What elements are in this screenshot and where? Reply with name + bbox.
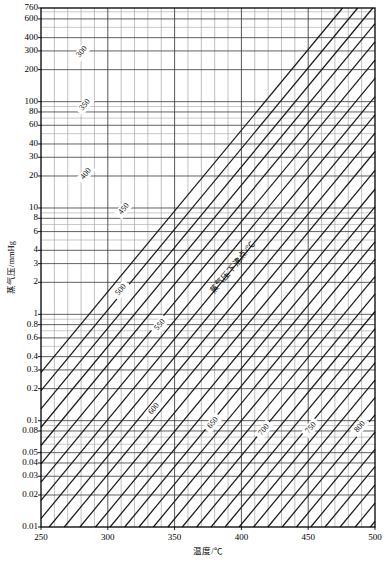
- x-tick-label: 450: [301, 532, 315, 542]
- y-tick-label: 0.2: [27, 383, 38, 393]
- y-tick-label: 20: [29, 170, 39, 180]
- y-tick-label: 0.02: [22, 489, 38, 499]
- y-tick-label: 40: [29, 138, 39, 148]
- x-axis-title: 温度/℃: [193, 546, 222, 556]
- y-tick-label: 6: [34, 226, 39, 236]
- y-tick-label: 30: [29, 151, 39, 161]
- chart-canvas: 7606004003002001008060403020108643210.80…: [0, 0, 390, 571]
- y-tick-label: 0.3: [27, 364, 39, 374]
- y-tick-label: 600: [25, 13, 39, 23]
- x-tick-label: 300: [101, 532, 115, 542]
- y-tick-label: 60: [29, 119, 39, 129]
- y-tick-label: 0.03: [22, 470, 38, 480]
- y-tick-label: 0.6: [27, 332, 39, 342]
- y-tick-label: 2: [34, 276, 39, 286]
- y-tick-label: 0.04: [22, 457, 38, 467]
- y-axis-title: 蒸气压/mmHg: [6, 240, 16, 294]
- y-tick-label: 80: [29, 106, 39, 116]
- y-tick-label: 100: [25, 96, 39, 106]
- y-tick-label: 0.08: [22, 425, 38, 435]
- vapor-pressure-nomograph: 7606004003002001008060403020108643210.80…: [0, 0, 390, 571]
- y-tick-label: 0.8: [27, 319, 39, 329]
- x-tick-label: 400: [235, 532, 249, 542]
- y-tick-label: 400: [25, 32, 39, 42]
- y-tick-label: 0.4: [27, 351, 39, 361]
- y-tick-label: 300: [25, 45, 39, 55]
- x-axis-tick-labels: 250300350400450500: [34, 527, 382, 542]
- y-tick-label: 10: [29, 202, 39, 212]
- y-tick-label: 1: [34, 308, 39, 318]
- y-tick-label: 200: [25, 64, 39, 74]
- x-tick-label: 350: [168, 532, 182, 542]
- y-tick-label: 3: [34, 258, 39, 268]
- y-tick-label: 760: [25, 2, 39, 12]
- x-tick-label: 500: [368, 532, 382, 542]
- y-tick-label: 8: [34, 212, 39, 222]
- y-tick-label: 0.1: [27, 415, 38, 425]
- y-tick-label: 4: [34, 244, 39, 254]
- y-tick-label: 0.01: [22, 521, 38, 531]
- y-axis-tick-labels: 7606004003002001008060403020108643210.80…: [22, 2, 41, 531]
- y-tick-label: 0.05: [22, 447, 38, 457]
- x-tick-label: 250: [34, 532, 48, 542]
